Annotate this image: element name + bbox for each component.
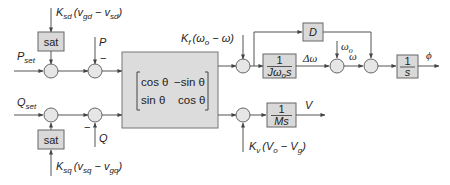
- inertia-numerator: 1: [276, 54, 282, 66]
- q-minus-sign: −: [84, 121, 90, 133]
- sum-junction-p1: [44, 64, 58, 78]
- sum-junction-voltage: [236, 108, 250, 122]
- inertia-denominator: Jωos: [266, 66, 292, 80]
- rotation-matrix-block: [122, 52, 218, 128]
- integrator-denominator: s: [405, 66, 411, 78]
- diagram-svg: Pset Ksd(vgd − vsd) sat P − Qset sat Ksq…: [0, 0, 450, 185]
- voltage-denominator: Ms: [274, 115, 289, 127]
- ksd-input-label: Ksd(vgd − vsd): [56, 6, 122, 21]
- sum-junction-phase: [364, 59, 378, 73]
- droop-control-block-diagram: Pset Ksd(vgd − vsd) sat P − Qset sat Ksq…: [0, 0, 450, 185]
- damping-label: D: [309, 26, 317, 38]
- sat-label-top: sat: [44, 36, 59, 48]
- sum-junction-p2: [88, 64, 102, 78]
- kf-droop-label: Kf(ωo − ω): [181, 32, 234, 47]
- p-feedback-label: P: [99, 36, 107, 48]
- matrix-r1c1: cos θ: [141, 76, 169, 88]
- matrix-r1c2: −sin θ: [174, 76, 205, 88]
- sum-junction-q1: [44, 108, 58, 122]
- sum-junction-freq: [236, 59, 250, 73]
- matrix-r2c2: cos θ: [178, 94, 206, 106]
- q-feedback-label: Q: [99, 132, 108, 144]
- sum-junction-q2: [88, 108, 102, 122]
- omega-label: ω: [349, 50, 357, 62]
- sat-label-bottom: sat: [44, 134, 59, 146]
- voltage-output-label: V: [305, 99, 314, 111]
- kv-droop-label: Kv(Vo − Vg): [249, 140, 306, 155]
- phi-label: ϕ: [426, 49, 432, 61]
- ksq-input-label: Ksq(vsq − vgq): [56, 160, 122, 175]
- matrix-r2c1: sin θ: [141, 94, 165, 106]
- sum-junction-omega: [330, 59, 344, 73]
- p-minus-sign: −: [100, 52, 106, 64]
- delta-omega-label: Δω: [302, 52, 317, 64]
- voltage-numerator: 1: [278, 103, 284, 115]
- q-set-label: Qset: [17, 96, 37, 111]
- p-set-label: Pset: [17, 50, 36, 65]
